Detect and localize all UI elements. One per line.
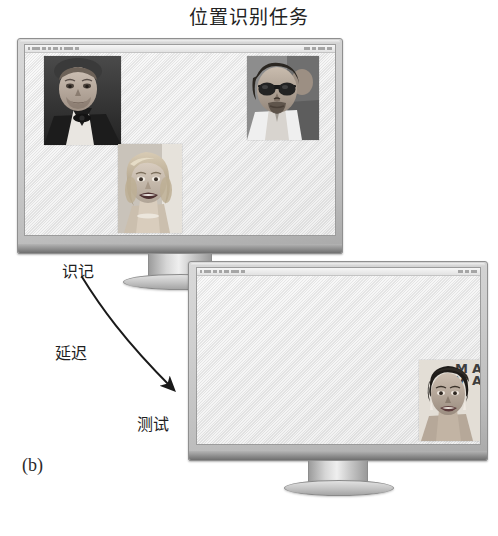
face-photo-bottom-center[interactable] bbox=[118, 144, 182, 233]
menu-item-tick bbox=[42, 47, 46, 50]
face-photo-top-left[interactable] bbox=[44, 56, 121, 145]
menu-status-tick bbox=[465, 270, 469, 273]
bezel-bottom-shade bbox=[189, 451, 487, 460]
man-bowtie-face-icon bbox=[44, 56, 121, 145]
test-monitor: M A V A bbox=[188, 261, 488, 461]
blonde-woman-face-icon bbox=[118, 144, 182, 233]
short-dark-hair-woman-face-icon: M A V A bbox=[419, 360, 481, 441]
menu-item-tick bbox=[219, 270, 222, 273]
encoding-monitor bbox=[17, 38, 343, 254]
menu-item-tick bbox=[200, 270, 202, 273]
menubar-right-items bbox=[304, 47, 332, 51]
test-monitor-stand-base bbox=[284, 480, 394, 496]
menu-item-tick bbox=[60, 47, 62, 50]
menu-item-tick bbox=[48, 47, 51, 50]
menu-item-tick bbox=[53, 47, 58, 50]
menu-item-tick bbox=[241, 270, 245, 273]
menu-status-tick bbox=[304, 47, 310, 50]
bezel-top-gloss bbox=[191, 263, 485, 266]
encoding-screen-menubar bbox=[25, 45, 335, 53]
menu-item-tick bbox=[64, 47, 73, 50]
menu-item-tick bbox=[213, 270, 217, 273]
menu-item-tick bbox=[75, 47, 79, 50]
man-sunglasses-face-icon bbox=[247, 56, 319, 140]
bezel-top-gloss bbox=[20, 40, 340, 43]
menu-status-tick bbox=[471, 270, 477, 273]
test-step-label: 测试 bbox=[137, 411, 169, 435]
menu-item-tick bbox=[231, 270, 239, 273]
encoding-screen[interactable] bbox=[24, 44, 336, 236]
panel-letter: (b) bbox=[22, 455, 43, 476]
figure-title: 位置识别任务 bbox=[0, 2, 498, 29]
menu-status-tick bbox=[458, 270, 463, 273]
menubar-left-items bbox=[200, 270, 245, 274]
encoding-step-label: 识记 bbox=[62, 258, 94, 282]
bezel-bottom-shade bbox=[18, 244, 342, 253]
menubar-right-items bbox=[458, 270, 477, 274]
menu-status-tick bbox=[318, 47, 325, 50]
menu-item-tick bbox=[28, 47, 30, 50]
menu-item-tick bbox=[204, 270, 211, 273]
face-photo-right[interactable]: M A V A bbox=[419, 360, 481, 441]
delay-step-label: 延迟 bbox=[55, 340, 87, 364]
test-screen-menubar bbox=[197, 268, 480, 276]
svg-text:A: A bbox=[472, 373, 481, 388]
menubar-left-items bbox=[28, 47, 79, 51]
menu-item-tick bbox=[224, 270, 229, 273]
test-screen[interactable]: M A V A bbox=[196, 267, 481, 445]
menu-status-tick bbox=[312, 47, 316, 50]
face-photo-top-right[interactable] bbox=[247, 56, 319, 140]
menu-item-tick bbox=[32, 47, 40, 50]
menu-status-tick bbox=[327, 47, 332, 50]
